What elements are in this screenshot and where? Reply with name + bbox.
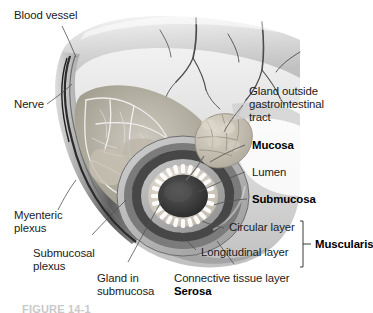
label-gland-outside-line2: gastrointestinal [249,98,324,111]
label-serosa: Serosa [174,285,211,298]
gi-tract-figure: Blood vessel Nerve Gland outside gastroi… [0,0,373,313]
label-connective-tissue-layer: Connective tissue layer [174,272,289,285]
label-myenteric-plexus-line1: Myenteric [14,209,62,222]
label-mucosa: Mucosa [252,139,294,152]
label-circular-layer: Circular layer [229,221,295,234]
label-gland-outside-line3: tract [249,111,271,124]
label-longitudinal-layer: Longitudinal layer [201,246,289,259]
label-gland-in-submucosa-line1: Gland in [97,272,139,285]
label-myenteric-plexus-line2: plexus [14,222,46,235]
label-muscularis: Muscularis [315,238,373,251]
label-lumen: Lumen [252,166,286,179]
label-gland-in-submucosa-line2: submucosa [97,285,154,298]
label-submucosal-plexus-line2: plexus [33,260,65,273]
label-submucosal-plexus-line1: Submucosal [33,247,95,260]
figure-caption: FIGURE 14-1 [22,303,91,313]
leader-myenteric-plexus [58,180,76,210]
label-blood-vessel: Blood vessel [14,9,77,22]
label-gland-outside-line1: Gland outside [249,85,318,98]
label-submucosa: Submucosa [252,193,316,206]
muscularis-bracket [300,221,311,267]
label-nerve: Nerve [14,98,44,111]
